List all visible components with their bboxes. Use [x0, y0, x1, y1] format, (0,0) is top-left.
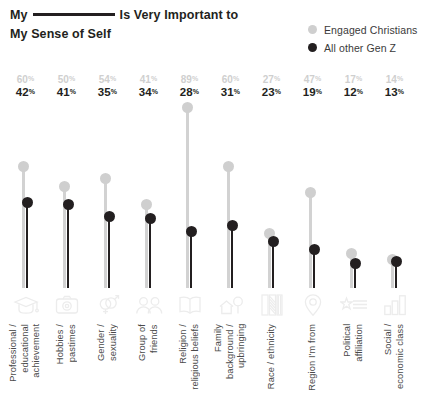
value-label-all-other-gen-z: 23%: [251, 86, 292, 98]
data-point-all-other-gen-z[interactable]: [391, 256, 402, 267]
data-point-all-other-gen-z[interactable]: [145, 213, 156, 224]
chart-column[interactable]: 89%28%: [169, 0, 210, 420]
value-label-all-other-gen-z: 19%: [292, 86, 333, 98]
chart-column[interactable]: 60%42%: [5, 0, 46, 420]
stem-engaged-christians: [22, 166, 25, 288]
stem-all-other-gen-z: [26, 203, 29, 288]
value-label-all-other-gen-z: 31%: [210, 86, 251, 98]
stem-all-other-gen-z: [313, 249, 316, 288]
stem-all-other-gen-z: [149, 219, 152, 288]
value-label-engaged-christians: 60%: [5, 74, 46, 85]
stem-all-other-gen-z: [67, 205, 70, 288]
chart-column[interactable]: 60%31%: [210, 0, 251, 420]
value-label-engaged-christians: 41%: [128, 74, 169, 85]
value-label-engaged-christians: 17%: [333, 74, 374, 85]
value-label-all-other-gen-z: 35%: [87, 86, 128, 98]
value-label-engaged-christians: 60%: [210, 74, 251, 85]
data-point-engaged-christians[interactable]: [59, 181, 70, 192]
chart-column[interactable]: 14%13%: [374, 0, 415, 420]
value-label-all-other-gen-z: 42%: [5, 86, 46, 98]
value-label-engaged-christians: 14%: [374, 74, 415, 85]
value-label-engaged-christians: 54%: [87, 74, 128, 85]
data-point-all-other-gen-z[interactable]: [22, 197, 33, 208]
stem-all-other-gen-z: [231, 225, 234, 288]
stem-all-other-gen-z: [108, 217, 111, 288]
data-point-all-other-gen-z[interactable]: [104, 211, 115, 222]
stem-all-other-gen-z: [190, 231, 193, 288]
value-label-engaged-christians: 89%: [169, 74, 210, 85]
lollipop-chart: Professional / educational achievement60…: [0, 0, 427, 420]
value-label-engaged-christians: 27%: [251, 74, 292, 85]
value-label-all-other-gen-z: 12%: [333, 86, 374, 98]
stem-engaged-christians: [309, 193, 312, 288]
value-label-engaged-christians: 47%: [292, 74, 333, 85]
data-point-all-other-gen-z[interactable]: [63, 199, 74, 210]
value-label-all-other-gen-z: 34%: [128, 86, 169, 98]
data-point-engaged-christians[interactable]: [223, 161, 234, 172]
data-point-all-other-gen-z[interactable]: [350, 258, 361, 269]
stem-engaged-christians: [186, 107, 189, 288]
data-point-all-other-gen-z[interactable]: [227, 220, 238, 231]
data-point-engaged-christians[interactable]: [100, 173, 111, 184]
value-label-all-other-gen-z: 13%: [374, 86, 415, 98]
chart-column[interactable]: 41%34%: [128, 0, 169, 420]
data-point-engaged-christians[interactable]: [18, 161, 29, 172]
chart-column[interactable]: 27%23%: [251, 0, 292, 420]
data-point-all-other-gen-z[interactable]: [268, 236, 279, 247]
value-label-all-other-gen-z: 41%: [46, 86, 87, 98]
data-point-all-other-gen-z[interactable]: [309, 244, 320, 255]
data-point-engaged-christians[interactable]: [305, 187, 316, 198]
data-point-all-other-gen-z[interactable]: [186, 226, 197, 237]
chart-column[interactable]: 47%19%: [292, 0, 333, 420]
chart-column[interactable]: 50%41%: [46, 0, 87, 420]
chart-column[interactable]: 54%35%: [87, 0, 128, 420]
stem-engaged-christians: [104, 178, 107, 288]
value-label-engaged-christians: 50%: [46, 74, 87, 85]
data-point-engaged-christians[interactable]: [182, 102, 193, 113]
chart-column[interactable]: 17%12%: [333, 0, 374, 420]
stem-all-other-gen-z: [272, 241, 275, 288]
data-point-engaged-christians[interactable]: [141, 199, 152, 210]
value-label-all-other-gen-z: 28%: [169, 86, 210, 98]
